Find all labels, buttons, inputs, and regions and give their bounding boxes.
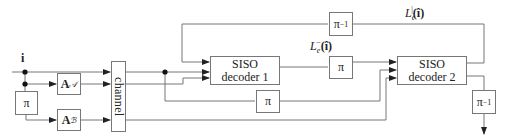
deinterleaver-output-block: π−1 xyxy=(472,90,496,114)
extrinsic-label-decoder-1: Le−(î) xyxy=(310,38,332,55)
interleaver-input-block: π xyxy=(15,91,38,115)
encoder-a-block: A𝒜 xyxy=(57,73,81,95)
encoder-b-block: Aℬ xyxy=(57,109,81,131)
input-label-i: i xyxy=(21,51,24,66)
extrinsic-label-decoder-2: Le|(î) xyxy=(405,5,424,22)
interleaver-mid-block: π xyxy=(329,56,353,79)
siso-decoder-1-block: SISO decoder 1 xyxy=(210,56,280,85)
interleaver-bottom-block: π xyxy=(256,90,280,113)
siso-decoder-2-block: SISO decoder 2 xyxy=(397,56,467,85)
channel-block: channel xyxy=(111,61,126,132)
deinterleaver-feedback-block: π−1 xyxy=(329,12,353,36)
